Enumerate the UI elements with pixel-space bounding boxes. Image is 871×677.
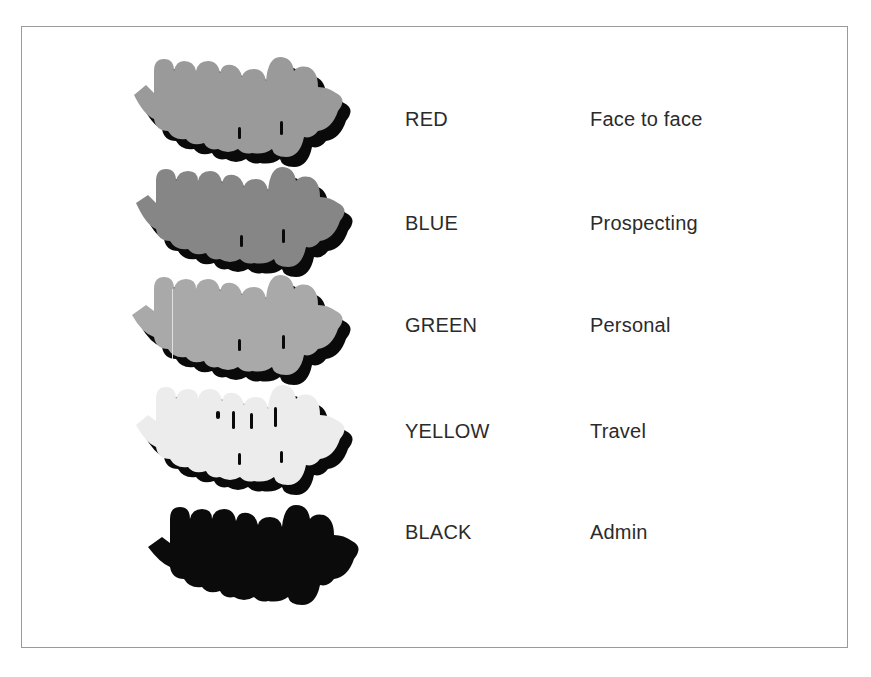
legend-row-blue: BLUE Prospecting bbox=[22, 167, 847, 277]
color-name-label: RED bbox=[405, 108, 448, 131]
color-name-label: BLACK bbox=[405, 521, 472, 544]
swatch-blue bbox=[132, 167, 372, 277]
swatch-green bbox=[132, 275, 372, 385]
legend-panel: RED Face to face BLUE Prospecting bbox=[21, 26, 848, 648]
category-label: Travel bbox=[590, 420, 646, 443]
category-label: Prospecting bbox=[590, 212, 698, 235]
color-name-label: YELLOW bbox=[405, 420, 490, 443]
legend-row-black: BLACK Admin bbox=[22, 497, 847, 607]
paint-swatch-icon bbox=[132, 497, 372, 607]
category-label: Face to face bbox=[590, 108, 702, 131]
legend-row-green: GREEN Personal bbox=[22, 275, 847, 385]
legend-row-yellow: YELLOW Travel bbox=[22, 385, 847, 495]
swatch-black bbox=[132, 497, 372, 607]
category-label: Admin bbox=[590, 521, 648, 544]
paint-swatch-icon bbox=[132, 57, 372, 167]
category-label: Personal bbox=[590, 314, 671, 337]
color-name-label: GREEN bbox=[405, 314, 477, 337]
paint-swatch-icon bbox=[132, 167, 372, 277]
paint-swatch-icon bbox=[132, 275, 372, 385]
swatch-red bbox=[132, 57, 372, 167]
color-name-label: BLUE bbox=[405, 212, 458, 235]
legend-row-red: RED Face to face bbox=[22, 57, 847, 167]
paint-swatch-icon bbox=[132, 385, 372, 495]
swatch-yellow bbox=[132, 385, 372, 495]
